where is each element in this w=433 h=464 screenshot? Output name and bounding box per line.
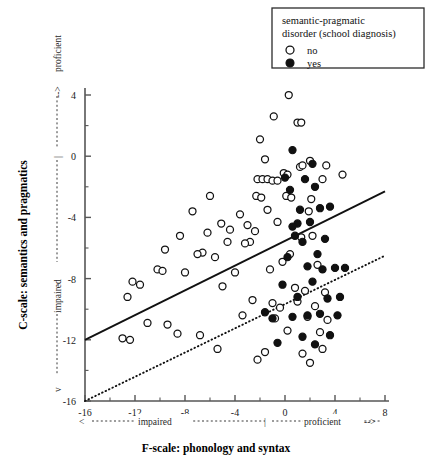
x-tick-label: 8 (383, 407, 388, 418)
scatter-plot-figure: semantic-pragmatic disorder (school diag… (0, 0, 433, 464)
data-point-yes (314, 251, 321, 258)
data-point-yes (291, 232, 298, 239)
data-points (119, 92, 349, 367)
data-point-yes (289, 146, 296, 153)
data-point-no (144, 319, 151, 326)
y-anno-low-label: impaired (53, 279, 63, 313)
data-point-yes (326, 203, 333, 210)
data-point-no (204, 229, 211, 236)
y-anno-midpoint: | (53, 156, 63, 158)
x-axis-title: F-scale: phonology and syntax (142, 442, 291, 455)
data-point-no (323, 162, 330, 169)
data-point-no (252, 228, 259, 235)
y-axis-title: C-scale: semantics and pragmatics (17, 160, 30, 330)
data-point-yes (281, 174, 288, 181)
data-point-yes (319, 266, 326, 273)
axis-ticks (85, 95, 385, 401)
data-point-no (288, 194, 295, 201)
data-point-no (267, 266, 274, 273)
y-anno-high-arrow: --> (53, 86, 63, 98)
legend-title-line2: disorder (school diagnosis) (282, 28, 396, 40)
data-point-no (197, 332, 204, 339)
data-point-no (212, 254, 219, 261)
chart-canvas: semantic-pragmatic disorder (school diag… (0, 0, 433, 464)
data-point-yes (294, 293, 301, 300)
legend-label-yes: yes (307, 58, 321, 69)
legend-label-no: no (307, 45, 318, 56)
data-point-yes (336, 293, 343, 300)
data-point-no (249, 297, 256, 304)
data-point-no (129, 278, 136, 285)
data-point-no (270, 113, 277, 120)
data-point-yes (306, 218, 313, 225)
data-point-no (307, 359, 314, 366)
data-point-yes (316, 205, 323, 212)
data-point-no (244, 222, 251, 229)
data-point-yes (316, 310, 323, 317)
data-point-yes (326, 332, 333, 339)
data-point-yes (299, 238, 306, 245)
data-point-yes (289, 223, 296, 230)
data-point-no (164, 321, 171, 328)
x-anno-midpoint: | (264, 417, 266, 427)
x-anno-left-arrow: < (79, 417, 84, 427)
data-point-no (159, 267, 166, 274)
data-point-no (309, 232, 316, 239)
data-point-no (312, 303, 319, 310)
data-point-no (189, 208, 196, 215)
data-point-no (277, 304, 284, 311)
data-point-no (257, 136, 264, 143)
y-tick-label: -4 (68, 212, 76, 223)
data-point-no (207, 192, 214, 199)
data-point-no (127, 336, 134, 343)
data-point-no (162, 246, 169, 253)
data-point-no (258, 194, 265, 201)
legend-marker-open-circle (286, 46, 294, 54)
legend: semantic-pragmatic disorder (school diag… (272, 8, 424, 69)
data-point-yes (321, 235, 328, 242)
y-tick-label: -16 (63, 396, 76, 407)
data-point-yes (341, 264, 348, 271)
data-point-no (339, 171, 346, 178)
x-anno-right-arrow: --> (364, 417, 376, 427)
data-point-yes (299, 333, 306, 340)
data-point-no (299, 162, 306, 169)
data-point-no (262, 349, 269, 356)
y-anno-low-arrow: v (53, 387, 63, 392)
data-point-no (227, 226, 234, 233)
data-point-yes (279, 281, 286, 288)
data-point-no (292, 284, 299, 291)
data-point-no (274, 218, 281, 225)
data-point-no (285, 92, 292, 99)
data-point-no (302, 287, 309, 294)
data-point-no (119, 335, 126, 342)
data-point-no (319, 345, 326, 352)
data-point-no (269, 300, 276, 307)
axis-tick-labels: -16-12-8-4048-16-12-8-404 (63, 90, 388, 418)
data-point-yes (286, 186, 293, 193)
data-point-yes (284, 254, 291, 261)
data-point-yes (274, 339, 281, 346)
data-point-yes (324, 295, 331, 302)
data-point-no (237, 211, 244, 218)
data-point-no (319, 176, 326, 183)
data-point-no (218, 220, 225, 227)
axes (84, 88, 389, 401)
data-point-yes (304, 312, 311, 319)
data-point-yes (311, 341, 318, 348)
data-point-yes (261, 309, 268, 316)
data-point-yes (311, 183, 318, 190)
y-tick-label: -8 (68, 274, 76, 285)
data-point-yes (334, 312, 341, 319)
data-point-no (324, 316, 331, 323)
x-tick-label: -4 (231, 407, 239, 418)
data-point-no (137, 281, 144, 288)
data-point-no (177, 232, 184, 239)
data-point-no (274, 177, 281, 184)
data-point-no (224, 238, 231, 245)
data-point-no (182, 269, 189, 276)
data-point-yes (309, 160, 316, 167)
data-point-no (232, 269, 239, 276)
data-point-no (239, 312, 246, 319)
x-anno-left-label: impaired (138, 417, 172, 427)
